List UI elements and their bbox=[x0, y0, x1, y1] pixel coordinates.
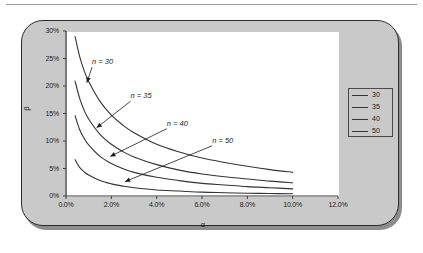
y-tick-label: 5% bbox=[29, 165, 59, 173]
x-tick-label: 4.0% bbox=[137, 201, 177, 209]
legend-label: 40 bbox=[372, 115, 380, 123]
chart-legend: 30354050 bbox=[348, 88, 393, 137]
y-tick-label: 15% bbox=[29, 110, 59, 118]
curve-annotation-label: n = 35 bbox=[131, 91, 152, 100]
x-tick-label: 12.0% bbox=[318, 201, 358, 209]
x-tick-label: 10.0% bbox=[273, 201, 313, 209]
legend-label: 50 bbox=[372, 127, 380, 135]
curve-annotation-label: n = 50 bbox=[212, 136, 233, 145]
y-tick-label: 20% bbox=[29, 82, 59, 90]
y-tick-label: 25% bbox=[29, 55, 59, 63]
x-tick-label: 6.0% bbox=[182, 201, 222, 209]
y-tick-label: 0% bbox=[29, 192, 59, 200]
legend-item[interactable]: 50 bbox=[349, 125, 392, 137]
y-axis-label: β bbox=[22, 106, 31, 110]
x-tick-label: 8.0% bbox=[227, 201, 267, 209]
legend-label: 35 bbox=[372, 103, 380, 111]
legend-label: 30 bbox=[372, 91, 380, 99]
curve-annotation-label: n = 30 bbox=[92, 57, 113, 66]
legend-line-swatch bbox=[352, 131, 368, 132]
annotation-arrows bbox=[86, 67, 212, 182]
y-tick-label: 10% bbox=[29, 137, 59, 145]
legend-line-swatch bbox=[352, 95, 368, 96]
legend-line-swatch bbox=[352, 107, 368, 108]
x-tick-label: 0.0% bbox=[46, 201, 86, 209]
legend-item[interactable]: 35 bbox=[349, 101, 392, 113]
curve-annotation-label: n = 40 bbox=[167, 119, 188, 128]
y-tick-label: 30% bbox=[29, 27, 59, 35]
x-axis-label: α bbox=[183, 220, 223, 229]
x-tick-label: 2.0% bbox=[91, 201, 131, 209]
legend-item[interactable]: 40 bbox=[349, 113, 392, 125]
legend-line-swatch bbox=[352, 119, 368, 120]
legend-item[interactable]: 30 bbox=[349, 89, 392, 101]
